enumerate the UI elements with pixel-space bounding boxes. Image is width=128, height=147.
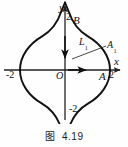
y-axis-label: y bbox=[59, 2, 64, 13]
point-b-label: B bbox=[73, 15, 80, 26]
figure-caption-label: 图 bbox=[45, 131, 56, 142]
point-a1-label: A1 bbox=[107, 40, 116, 52]
figure-caption-number: 4.19 bbox=[62, 131, 83, 142]
figure-caption: 图4.19 bbox=[0, 128, 128, 143]
a1-leader-line bbox=[72, 46, 106, 59]
y-tick-negative-label: -2 bbox=[69, 104, 77, 114]
origin-label: O bbox=[56, 71, 63, 81]
figure-container: y x 2 2 -2 -2 O B A L1 A1 图4.19 bbox=[0, 0, 128, 147]
x-axis-label: x bbox=[114, 56, 119, 67]
curve-arc-label-subscript: 1 bbox=[85, 44, 88, 51]
point-a-label: A bbox=[99, 71, 106, 82]
x-tick-positive-label: 2 bbox=[109, 70, 114, 80]
plot-area bbox=[0, 0, 128, 124]
x-tick-negative-label: -2 bbox=[6, 70, 14, 80]
y-tick-positive-label: 2 bbox=[66, 12, 71, 22]
curve-arc-label-base: L bbox=[79, 36, 85, 47]
point-a1-label-subscript: 1 bbox=[113, 47, 116, 54]
astroid-plot-svg bbox=[0, 0, 128, 124]
curve-arc-label: L1 bbox=[79, 37, 88, 49]
